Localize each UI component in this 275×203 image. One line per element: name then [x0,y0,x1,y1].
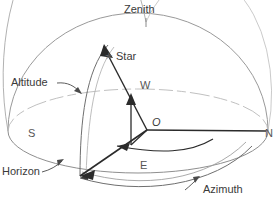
label-north: N [265,128,273,139]
altitude-vertical-circle-inner [86,47,114,176]
label-origin: O [152,117,161,128]
axis-origin-to-azimuth-point [80,130,147,176]
axis-origin-to-north [147,130,266,131]
diagram-canvas [0,0,275,203]
label-altitude: Altitude [11,77,48,88]
axis-origin-to-star [108,55,147,130]
label-azimuth: Azimuth [203,184,243,195]
label-horizon: Horizon [2,166,40,177]
celestial-sphere-diagram: Zenith ✯ Star Altitude W O S N E Horizon… [0,0,275,203]
vertical-arrow-base-connector [131,130,147,145]
label-star: Star [116,51,136,62]
azimuth-band-arc-outer [80,146,252,187]
star-icon: ✯ [105,52,113,61]
label-west: W [140,80,150,91]
azimuth-band-arc-inner [82,142,246,181]
label-zenith: Zenith [124,4,155,15]
vertical-altitude-arrowhead-icon [126,93,136,105]
horizon-ellipse-front [8,131,268,173]
horizon-ellipse-back [8,89,268,131]
dome-meridian-arc-left [3,0,146,131]
label-east: E [140,160,147,171]
label-south: S [28,128,35,139]
